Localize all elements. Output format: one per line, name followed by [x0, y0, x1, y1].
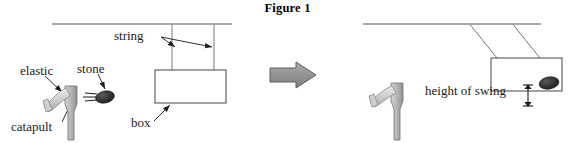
- transition-arrow-group: [270, 62, 316, 88]
- stone-motion-line-1: [85, 93, 97, 94]
- stone-motion-line-3: [85, 100, 97, 101]
- stone-left-group: [83, 89, 116, 105]
- stone-leader-arrow: [98, 74, 105, 89]
- label-stone: stone: [77, 62, 104, 75]
- figure-container: Figure 1: [0, 0, 575, 143]
- string-right-1: [470, 25, 497, 59]
- label-box: box: [131, 116, 151, 129]
- label-catapult: catapult: [11, 120, 52, 133]
- label-string: string: [114, 29, 144, 42]
- string-right-2: [513, 25, 540, 59]
- box-left: [155, 70, 226, 103]
- right-panel-group: [363, 24, 562, 140]
- stone-left: [94, 89, 115, 105]
- label-height-of-swing: height of swing: [425, 84, 506, 97]
- elastic-leader-arrow: [45, 76, 62, 92]
- process-arrow-icon: [270, 62, 316, 88]
- label-elastic: elastic: [20, 64, 53, 77]
- box-leader-arrow: [154, 105, 170, 121]
